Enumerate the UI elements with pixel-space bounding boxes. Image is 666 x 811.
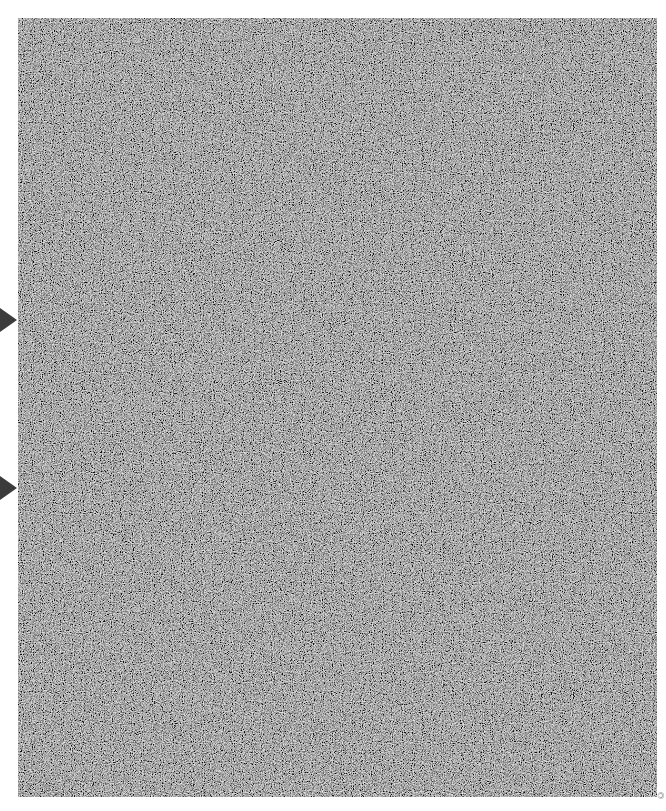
lower-marker-arrow-icon bbox=[0, 476, 17, 500]
noise-texture-panel bbox=[18, 18, 657, 797]
upper-marker-arrow-icon bbox=[0, 308, 17, 332]
edge-caption: © bbox=[656, 700, 666, 800]
